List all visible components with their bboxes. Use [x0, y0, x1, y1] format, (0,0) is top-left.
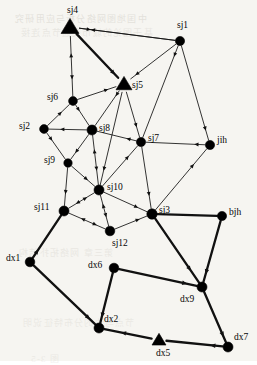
edge-dx5-dx7	[166, 341, 222, 348]
edge-dx6-dx9	[119, 269, 196, 286]
edge-sj3-dx9	[155, 219, 199, 283]
node-bjh[interactable]	[217, 211, 226, 220]
edge-sj1-jih	[181, 46, 208, 140]
edge-sj8-sj10	[93, 135, 99, 184]
edge-sj5-sj6	[78, 87, 116, 100]
node-dx6[interactable]	[109, 263, 119, 273]
node-dx1[interactable]	[25, 257, 35, 267]
node-dx2[interactable]	[94, 323, 104, 333]
edge-dx2-dx5	[104, 329, 151, 338]
node-jih[interactable]	[205, 140, 214, 149]
edge-sj10-sj11	[69, 193, 95, 208]
node-sj11[interactable]	[59, 206, 69, 216]
node-sj4[interactable]	[61, 18, 79, 33]
node-sj12[interactable]	[105, 226, 115, 236]
node-dx5[interactable]	[152, 333, 166, 345]
edge-sj4-sj6	[69, 36, 74, 96]
edge-dx1-dx2	[34, 266, 95, 325]
edge-sj11-dx1	[33, 216, 61, 258]
edge-bjh-dx9	[203, 221, 220, 282]
edge-dx6-dx2	[100, 273, 112, 323]
edge-sj1-sj7	[143, 46, 178, 137]
edge-sj4-sj5	[77, 34, 119, 78]
edge-sj2-sj9	[47, 133, 65, 159]
edge-sj5-sj10	[100, 92, 122, 184]
edge-dx9-dx7	[204, 292, 226, 342]
edge-sj5-sj7	[126, 92, 139, 137]
node-dx9[interactable]	[197, 282, 207, 292]
edge-jih-sj3	[156, 149, 207, 210]
node-sj6[interactable]	[69, 97, 78, 106]
node-dx7[interactable]	[223, 342, 233, 352]
node-sj9[interactable]	[64, 159, 72, 167]
edge-sj1-sj5	[131, 44, 176, 79]
edge-sj8-sj7	[97, 131, 136, 141]
edge-sj10-sj3	[104, 192, 147, 211]
node-sj2[interactable]	[40, 125, 49, 134]
node-sj8[interactable]	[87, 125, 97, 135]
node-sj3[interactable]	[147, 209, 157, 219]
edge-sj7-jih	[146, 142, 205, 146]
edge-sj3-bjh	[158, 214, 217, 216]
edge-sj9-sj11	[64, 168, 68, 206]
node-sj7[interactable]	[136, 137, 145, 146]
edge-layer	[33, 27, 226, 348]
edge-sj6-sj2	[48, 104, 70, 125]
node-layer	[25, 18, 233, 352]
edge-sj9-sj10	[72, 166, 95, 186]
edge-sj11-sj12	[69, 213, 105, 229]
node-sj10[interactable]	[94, 185, 104, 195]
edge-sj8-sj9	[71, 134, 89, 159]
edge-sj7-sj3	[142, 147, 151, 208]
edge-sj12-sj3	[115, 216, 147, 229]
node-sj1[interactable]	[175, 36, 184, 45]
edge-sj10-sj12	[100, 195, 108, 226]
edge-sj6-sj8	[76, 105, 89, 125]
edge-sj1-sj4	[79, 28, 175, 40]
edge-sj2-sj8	[49, 128, 87, 132]
